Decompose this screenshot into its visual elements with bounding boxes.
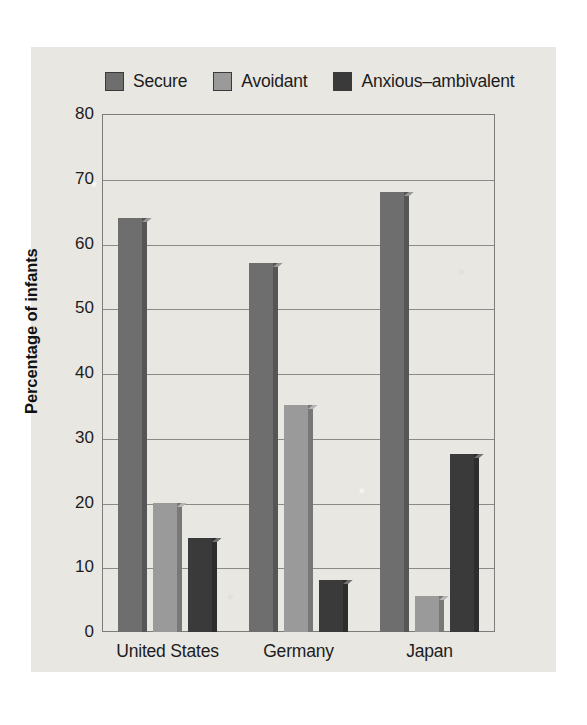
y-axis-tick-label: 20 [54,493,94,513]
x-axis-tick-labels: United StatesGermanyJapan [102,641,495,669]
y-axis-tick-labels: 01020304050607080 [50,114,94,632]
legend-swatch-avoidant [213,72,232,91]
y-axis-tick-label: 10 [54,557,94,577]
legend-item-anxious-ambivalent[interactable]: Anxious–ambivalent [333,71,514,92]
legend-label-anxious-ambivalent: Anxious–ambivalent [361,71,514,92]
legend-label-secure: Secure [133,71,187,92]
gridline [103,245,494,246]
legend-item-secure[interactable]: Secure [105,71,187,92]
y-axis-tick-label: 40 [54,363,94,383]
y-axis-tick-label: 60 [54,234,94,254]
gridline [103,439,494,440]
y-axis-tick-label: 70 [54,169,94,189]
gridline [103,568,494,569]
y-axis-tick-label: 0 [54,622,94,642]
legend-swatch-anxious-ambivalent [333,72,352,91]
gridline [103,309,494,310]
x-axis-tick-label: United States [116,641,218,662]
plot-area [102,114,495,632]
gridline [103,504,494,505]
y-axis-tick-label: 30 [54,428,94,448]
x-axis-tick-label: Japan [406,641,453,662]
x-axis-tick-label: Germany [263,641,334,662]
gridline [103,180,494,181]
legend-label-avoidant: Avoidant [241,71,307,92]
y-axis-tick-label: 50 [54,298,94,318]
legend-item-avoidant[interactable]: Avoidant [213,71,307,92]
y-axis-tick-label: 80 [54,104,94,124]
legend-swatch-secure [105,72,124,91]
gridline [103,374,494,375]
y-axis-title: Percentage of infants [22,248,41,414]
chart-legend: Secure Avoidant Anxious–ambivalent [105,71,514,92]
